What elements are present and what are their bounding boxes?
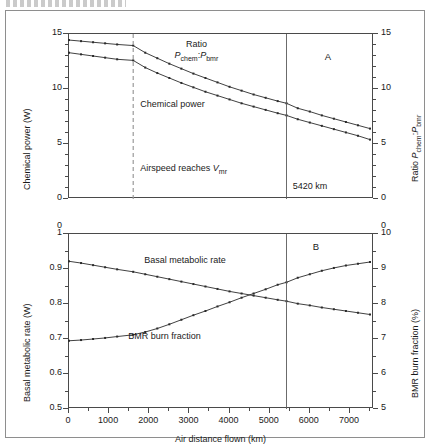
series-marker [345, 310, 347, 312]
axis-tick [188, 408, 189, 413]
axis-tick [68, 408, 69, 413]
ylabel-right-sub1: chem [415, 135, 422, 152]
series-marker [68, 52, 70, 54]
axis-tick [65, 154, 68, 155]
figure-frame: 005510101515 Chemical power (W) Ratio Pc… [5, 10, 425, 438]
series-marker [345, 265, 347, 267]
axis-tick [373, 198, 378, 199]
axis-tick [373, 143, 378, 144]
series-marker [265, 109, 267, 111]
annotation-ratio-sub1: chem [181, 55, 198, 62]
series-marker [116, 43, 118, 45]
series-marker [253, 295, 255, 297]
series-marker [333, 267, 335, 269]
series-marker [132, 271, 134, 273]
series-marker [104, 337, 106, 339]
series-marker [92, 41, 94, 43]
series-marker [333, 128, 335, 130]
series-marker [204, 91, 206, 93]
axis-tick [373, 121, 376, 122]
axis-tick [373, 99, 376, 100]
axis-tick [148, 408, 149, 413]
axis-tick [373, 321, 376, 322]
series-marker [204, 286, 206, 288]
annotation-airspeed-sub: mr [219, 168, 227, 175]
axis-tick [63, 338, 68, 339]
axis-tick [65, 176, 68, 177]
panel-a-ylabel-right: Ratio Pchem:Pbmr [410, 115, 422, 182]
series-marker [357, 124, 359, 126]
ylabel-right-p2: P [410, 127, 420, 133]
series-marker [357, 263, 359, 265]
annotation-ratio-line1: Ratio [186, 39, 207, 49]
series-marker [156, 328, 158, 330]
annotation-airspeed-prefix: Airspeed reaches [140, 163, 213, 173]
series-marker [216, 288, 218, 290]
axis-tick-label: 0.7 [44, 333, 62, 342]
axis-tick [373, 251, 376, 252]
axis-tick [373, 373, 378, 374]
series-marker [357, 135, 359, 137]
series-marker [192, 86, 194, 88]
axis-tick-label: 15 [48, 28, 62, 37]
series-marker [92, 264, 94, 266]
series-marker [92, 338, 94, 340]
axis-tick-label: 5000 [249, 416, 289, 425]
axis-tick [373, 233, 378, 234]
axis-tick [65, 132, 68, 133]
series-marker [216, 305, 218, 307]
axis-tick [65, 187, 68, 188]
series-marker [116, 336, 118, 338]
annotation-ratio: Ratio Pchem:Pbmr [166, 39, 226, 64]
series-marker [309, 304, 311, 306]
panel-b-ylabel-right: BMR burn fraction (%) [410, 309, 420, 398]
series-marker [144, 67, 146, 69]
page-header-fragment [6, 0, 126, 7]
axis-tick [373, 286, 376, 287]
axis-tick [63, 198, 68, 199]
series-marker [333, 308, 335, 310]
annotation-airspeed-vmr: Airspeed reaches Vmr [140, 163, 227, 177]
series-marker [229, 301, 231, 303]
axis-tick-label: 9 [381, 263, 386, 272]
series-marker [192, 314, 194, 316]
annotation-basal-metabolic-rate: Basal metabolic rate [144, 255, 226, 266]
annotation-chemical-power: Chemical power [140, 99, 205, 110]
series-marker [241, 90, 243, 92]
axis-tick-label: 0 [48, 416, 88, 425]
axis-tick [373, 44, 376, 45]
series-marker [180, 281, 182, 283]
series-marker [168, 77, 170, 79]
series-marker [104, 42, 106, 44]
axis-tick [229, 408, 230, 413]
axis-tick-label: 0.9 [44, 263, 62, 272]
axis-tick [373, 33, 378, 34]
series-marker [253, 94, 255, 96]
axis-tick [373, 268, 378, 269]
series-marker [277, 299, 279, 301]
axis-tick [269, 408, 270, 413]
ylabel-right-sep: : [410, 133, 420, 136]
axis-tick [65, 286, 68, 287]
series-marker [116, 268, 118, 270]
series-marker [297, 107, 299, 109]
ylabel-right-p1: P [410, 152, 420, 158]
series-line-1 [69, 262, 370, 341]
series-marker [297, 118, 299, 120]
series-marker [144, 273, 146, 275]
series-marker [144, 52, 146, 54]
axis-tick [63, 303, 68, 304]
series-marker [333, 118, 335, 120]
axis-tick [65, 110, 68, 111]
axis-tick-label: 7 [381, 333, 386, 342]
axis-tick [108, 408, 109, 413]
series-marker [241, 102, 243, 104]
axis-tick-label: 10 [381, 83, 391, 92]
series-marker [297, 277, 299, 279]
axis-tick-label: 0.5 [44, 403, 62, 412]
axis-tick [65, 99, 68, 100]
series-marker [80, 40, 82, 42]
axis-tick-label: 0 [44, 221, 62, 230]
axis-tick [373, 88, 378, 89]
series-marker [277, 100, 279, 102]
